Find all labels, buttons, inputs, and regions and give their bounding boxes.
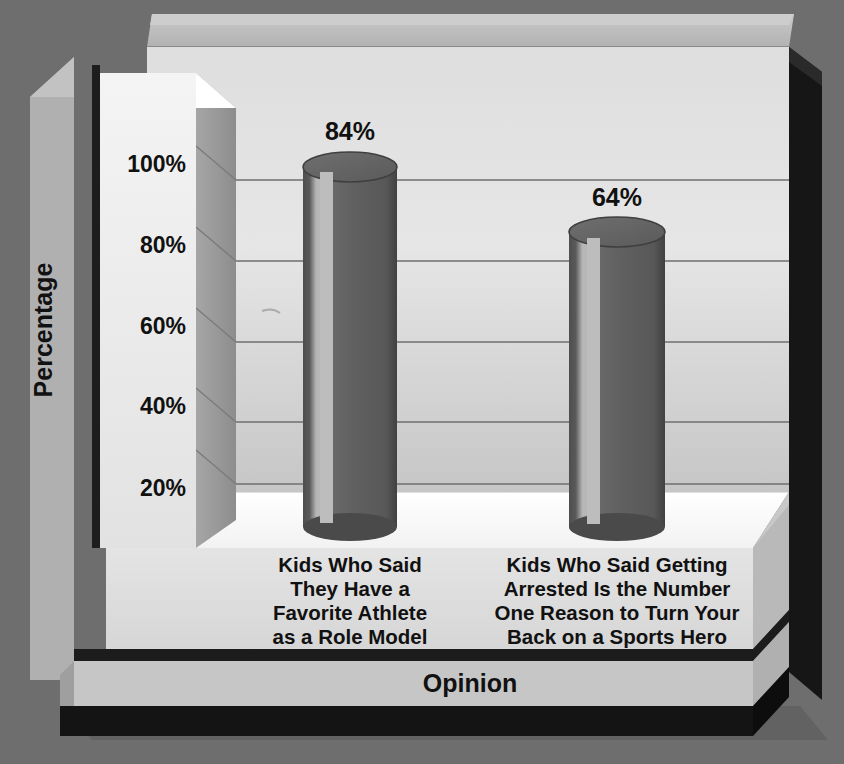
ytick-40: 40% — [140, 393, 186, 419]
wall-top-highlight — [150, 14, 794, 25]
y-axis-title: Percentage — [29, 263, 57, 398]
bar-1-top-ellipse — [303, 152, 397, 182]
ytick-60: 60% — [140, 313, 186, 339]
y-axis-side-face — [196, 73, 236, 548]
base-plinth — [60, 706, 753, 736]
ytick-20: 20% — [140, 475, 186, 501]
ytick-80: 80% — [140, 232, 186, 258]
bar-chart-3d: 100% 80% 60% 40% 20% 0% 84% 64% — [0, 0, 844, 764]
cat-2-line-4: Back on a Sports Hero — [507, 625, 727, 648]
cat-2-line-1: Kids Who Said Getting — [507, 553, 728, 576]
back-wall — [147, 47, 789, 492]
bar-2-top-ellipse — [569, 217, 665, 247]
cat-2-line-2: Arrested Is the Number — [504, 577, 731, 600]
y-axis-edge-cap — [92, 65, 100, 73]
block-right-side-face — [789, 47, 822, 700]
value-label-bar-2: 64% — [592, 183, 642, 211]
bar-1-bottom-cap — [303, 513, 397, 541]
value-label-bar-1: 84% — [325, 117, 375, 145]
cat-1-line-3: Favorite Athlete — [273, 601, 427, 624]
x-axis-title: Opinion — [423, 669, 517, 697]
bar-2-specular-highlight — [587, 238, 600, 524]
bar-cylinder-1[interactable] — [303, 152, 397, 541]
cat-1-line-1: Kids Who Said — [278, 553, 422, 576]
label-separator-bar — [74, 649, 753, 661]
category-label-1: Kids Who Said They Have a Favorite Athle… — [273, 553, 428, 648]
x-axis-title-strip — [74, 661, 753, 706]
bar-1-specular-highlight — [320, 172, 333, 523]
cat-1-line-4: as a Role Model — [273, 625, 428, 648]
bar-cylinder-2[interactable] — [569, 217, 665, 541]
bar-2-bottom-cap — [569, 513, 665, 541]
cat-1-line-2: They Have a — [290, 577, 410, 600]
chart-screenshot: 100% 80% 60% 40% 20% 0% 84% 64% — [0, 0, 844, 764]
y-axis-left-edge — [92, 73, 100, 548]
cat-2-line-3: One Reason to Turn Your — [495, 601, 740, 624]
bar-1-body — [303, 167, 397, 527]
bar-2-body — [569, 232, 665, 527]
category-label-2: Kids Who Said Getting Arrested Is the Nu… — [495, 553, 740, 648]
ytick-100: 100% — [127, 151, 186, 177]
